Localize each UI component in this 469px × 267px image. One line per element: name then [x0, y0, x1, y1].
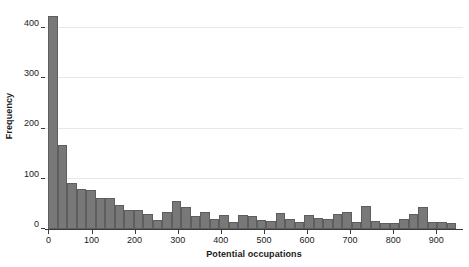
plot-area: 0100200300400 01002003004005006007008009…	[45, 8, 463, 230]
histogram-bar	[143, 214, 152, 229]
histogram-bar	[248, 216, 257, 229]
x-axis-line	[45, 229, 463, 230]
y-axis-title-text: Frequency	[4, 93, 14, 139]
histogram-bar	[409, 214, 418, 229]
histogram-bar	[257, 220, 266, 229]
x-tick-mark	[350, 230, 351, 234]
y-tick-mark	[41, 128, 45, 129]
histogram-bar	[153, 220, 162, 229]
histogram-bar	[77, 189, 86, 229]
x-axis-title: Potential occupations	[45, 249, 463, 259]
y-tick-label: 300	[24, 68, 39, 78]
histogram-figure: Frequency 0100200300400 0100200300400500…	[0, 0, 469, 267]
y-tick-mark	[41, 228, 45, 229]
x-tick-mark	[221, 230, 222, 234]
y-tick-mark	[41, 178, 45, 179]
y-tick-mark	[41, 27, 45, 28]
histogram-bar	[48, 16, 57, 229]
x-tick-label: 500	[256, 235, 271, 245]
histogram-bar	[191, 216, 200, 229]
x-tick-mark	[393, 230, 394, 234]
x-tick-label: 0	[46, 235, 51, 245]
x-tick-mark	[307, 230, 308, 234]
histogram-bar	[333, 214, 342, 229]
histogram-bar	[342, 212, 351, 229]
histogram-bar	[276, 213, 285, 229]
histogram-bar	[67, 183, 76, 229]
histogram-bar	[352, 222, 361, 229]
histogram-bar	[134, 210, 143, 229]
y-tick-label: 400	[24, 18, 39, 28]
histogram-bar	[124, 210, 133, 229]
x-tick-label: 900	[429, 235, 444, 245]
histogram-bar	[399, 219, 408, 229]
x-tick-label: 300	[170, 235, 185, 245]
histogram-bar	[172, 201, 181, 229]
x-tick-label: 800	[386, 235, 401, 245]
histogram-bar	[162, 212, 171, 229]
histogram-bar	[200, 212, 209, 229]
gridline	[45, 178, 463, 179]
x-tick-label: 400	[213, 235, 228, 245]
histogram-bar	[219, 215, 228, 229]
x-tick-label: 200	[127, 235, 142, 245]
y-tick-mark	[41, 77, 45, 78]
gridline	[45, 128, 463, 129]
x-tick-label: 600	[299, 235, 314, 245]
histogram-bar	[285, 219, 294, 229]
y-tick-label: 0	[34, 219, 39, 229]
histogram-bar	[229, 222, 238, 229]
histogram-bar	[428, 222, 437, 229]
y-axis-title: Frequency	[0, 0, 18, 232]
histogram-bar	[371, 221, 380, 229]
histogram-bar	[105, 198, 114, 229]
histogram-bar	[266, 221, 275, 229]
histogram-bar	[323, 219, 332, 229]
x-tick-label: 100	[84, 235, 99, 245]
x-tick-mark	[135, 230, 136, 234]
y-tick-label: 200	[24, 118, 39, 128]
x-tick-label: 700	[343, 235, 358, 245]
x-tick-mark	[264, 230, 265, 234]
x-tick-mark	[178, 230, 179, 234]
histogram-bar	[86, 190, 95, 229]
x-tick-mark	[48, 230, 49, 234]
histogram-bar	[96, 198, 105, 229]
histogram-bar	[304, 215, 313, 229]
histogram-bar	[361, 206, 370, 229]
gridline	[45, 77, 463, 78]
histogram-bar	[181, 207, 190, 229]
x-tick-mark	[92, 230, 93, 234]
histogram-bar	[210, 219, 219, 229]
histogram-bar	[58, 145, 67, 229]
histogram-bar	[314, 218, 323, 229]
gridline	[45, 27, 463, 28]
histogram-bar	[238, 215, 247, 229]
histogram-bar	[115, 205, 124, 229]
y-tick-label: 100	[24, 169, 39, 179]
x-tick-mark	[436, 230, 437, 234]
histogram-bar	[418, 207, 427, 229]
